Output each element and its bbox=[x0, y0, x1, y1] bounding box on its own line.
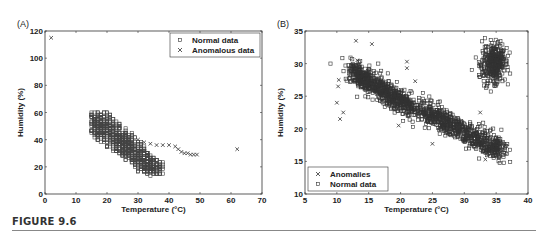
y-tick-label: 80 bbox=[34, 81, 43, 90]
x-tick-label: 25 bbox=[428, 196, 437, 205]
legend: Normal dataAnomalous data bbox=[170, 33, 260, 57]
y-axis-label: Humidity (%) bbox=[276, 88, 285, 137]
y-tick-label: 25 bbox=[294, 92, 303, 101]
y-tick-label: 30 bbox=[294, 60, 303, 69]
x-tick-label: 30 bbox=[460, 196, 469, 205]
figure-canvas: 010203040506070020406080100120Temperatur… bbox=[0, 0, 548, 240]
legend: AnomaliesNormal data bbox=[308, 167, 388, 191]
y-tick-label: 35 bbox=[294, 27, 303, 36]
legend-entry: Anomalies bbox=[330, 170, 371, 179]
x-tick-label: 20 bbox=[103, 196, 112, 205]
x-tick-label: 50 bbox=[196, 196, 205, 205]
x-tick-label: 5 bbox=[303, 196, 308, 205]
x-tick-label: 40 bbox=[524, 196, 533, 205]
y-tick-label: 40 bbox=[34, 136, 43, 145]
x-tick-label: 70 bbox=[258, 196, 267, 205]
y-tick-label: 120 bbox=[30, 27, 44, 36]
x-axis-label: Temperature (°C) bbox=[384, 205, 449, 214]
y-tick-label: 60 bbox=[34, 109, 43, 118]
x-tick-label: 60 bbox=[227, 196, 236, 205]
y-tick-label: 0 bbox=[39, 190, 44, 199]
legend-entry: Normal data bbox=[330, 180, 377, 189]
y-axis-label: Humidity (%) bbox=[16, 88, 25, 137]
x-tick-label: 10 bbox=[72, 196, 81, 205]
y-tick-label: 10 bbox=[294, 190, 303, 199]
x-tick-label: 30 bbox=[134, 196, 143, 205]
x-tick-label: 15 bbox=[364, 196, 373, 205]
y-tick-label: 20 bbox=[34, 163, 43, 172]
y-tick-label: 15 bbox=[294, 157, 303, 166]
chart-panel-b: 510152025303540101520253035Temperature (… bbox=[276, 19, 533, 214]
y-tick-label: 20 bbox=[294, 125, 303, 134]
x-tick-label: 40 bbox=[165, 196, 174, 205]
y-tick-label: 100 bbox=[30, 54, 44, 63]
chart-panel-a: 010203040506070020406080100120Temperatur… bbox=[16, 19, 267, 214]
x-axis-label: Temperature (°C) bbox=[121, 205, 186, 214]
legend-entry: Anomalous data bbox=[192, 46, 255, 55]
x-tick-label: 10 bbox=[332, 196, 341, 205]
panel-label: (A) bbox=[17, 19, 29, 29]
x-tick-label: 0 bbox=[43, 196, 48, 205]
x-tick-label: 20 bbox=[396, 196, 405, 205]
x-tick-label: 35 bbox=[492, 196, 501, 205]
figure-caption: FIGURE 9.6 bbox=[12, 216, 77, 227]
caption-rule bbox=[12, 230, 536, 231]
legend-entry: Normal data bbox=[192, 36, 239, 45]
panel-label: (B) bbox=[277, 19, 289, 29]
